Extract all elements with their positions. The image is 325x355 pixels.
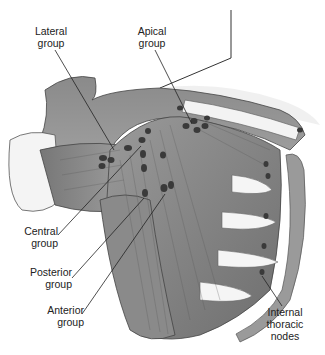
internal-thoracic-node (297, 128, 303, 133)
anterior-node (161, 184, 168, 192)
label-central-group: Central group (14, 225, 58, 249)
lateral-node (124, 145, 132, 151)
label-internal-thoracic-nodes: Internal thoracic nodes (256, 306, 314, 342)
label-posterior-group: Posterior group (18, 266, 72, 290)
posterior-node (142, 189, 148, 197)
internal-thoracic-node (264, 161, 269, 167)
posterior-node (141, 164, 147, 172)
apical-node (194, 127, 201, 133)
central-node (145, 128, 151, 134)
axilla-drawing (0, 0, 325, 355)
apical-node (177, 106, 183, 111)
apical-node (202, 123, 209, 129)
anterior-node (168, 181, 174, 189)
lateral-node (99, 155, 107, 161)
apical-node (183, 123, 190, 129)
internal-thoracic-node (260, 269, 265, 275)
lateral-node (99, 163, 106, 169)
internal-thoracic-node (262, 243, 267, 249)
central-node (139, 137, 146, 143)
anterior-node (160, 152, 166, 159)
internal-thoracic-node (266, 173, 271, 179)
posterior-node (140, 150, 146, 158)
anatomical-illustration: Lateral group Apical group Central group… (0, 0, 325, 355)
internal-thoracic-node (264, 213, 269, 219)
apical-node (204, 116, 210, 121)
lateral-node (108, 157, 115, 163)
label-anterior-group: Anterior group (34, 304, 84, 328)
label-apical-group: Apical group (132, 25, 172, 49)
label-lateral-group: Lateral group (28, 25, 74, 49)
